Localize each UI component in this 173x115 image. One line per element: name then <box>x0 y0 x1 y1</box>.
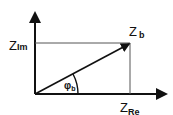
vector-label-sub: b <box>139 30 145 40</box>
real-label-sub: Re <box>128 107 140 115</box>
impedance-vector <box>35 44 129 94</box>
real-axis-label: ZRe <box>120 98 139 115</box>
imag-label-sub: Im <box>17 42 28 52</box>
vector-label-main: Z <box>129 24 137 39</box>
vector-label: Zb <box>129 22 144 40</box>
angle-label: φb <box>64 75 75 93</box>
phasor-diagram <box>0 0 173 115</box>
real-label-main: Z <box>120 100 128 115</box>
imag-axis-label: ZIm <box>9 36 27 54</box>
angle-label-sub: b <box>71 85 75 92</box>
imag-label-main: Z <box>9 38 17 53</box>
